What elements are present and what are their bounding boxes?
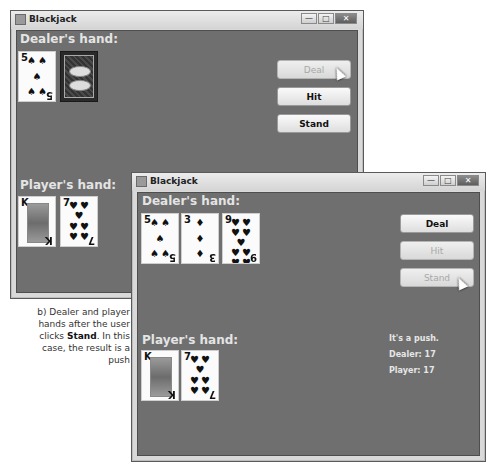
maximize-button[interactable]: □ xyxy=(440,175,456,186)
pips: ♥♥ ♥ ♥♥ ♥♥ xyxy=(68,201,90,242)
minimize-button[interactable]: — xyxy=(301,13,317,24)
table-area: Dealer's hand: 5 ♠♠ ♠ ♠♠ 5 3 ♦ ♦ ♦ 3 9 ♥… xyxy=(137,192,480,456)
stand-button[interactable]: Stand xyxy=(277,114,351,133)
card-9-hearts: 9 ♥♥ ♥♥ ♥ ♥♥ ♥♥ 9 xyxy=(222,213,260,264)
hit-button[interactable]: Hit xyxy=(400,241,474,260)
hit-button[interactable]: Hit xyxy=(277,87,351,106)
player-hand-label: Player's hand: xyxy=(142,333,238,347)
card-back-emblem xyxy=(69,66,91,77)
player-hand-label: Player's hand: xyxy=(20,178,116,192)
card-7-hearts: 7 ♥♥ ♥ ♥♥ ♥♥ 7 xyxy=(181,350,219,401)
pips: ♠♠ ♠ ♠♠ xyxy=(26,56,48,97)
figure-caption: b) Dealer and player hands after the use… xyxy=(18,306,130,366)
card-face-down xyxy=(60,51,98,102)
card-k-spades: K K xyxy=(141,350,179,401)
maximize-button[interactable]: □ xyxy=(318,13,334,24)
dealer-total: Dealer: 17 xyxy=(389,350,436,359)
card-k-spades: K K xyxy=(18,196,56,247)
app-icon xyxy=(15,14,26,25)
blackjack-window-after: Blackjack — □ ✕ Dealer's hand: 5 ♠♠ ♠ ♠♠… xyxy=(131,172,486,462)
minimize-button[interactable]: — xyxy=(423,175,439,186)
close-button[interactable]: ✕ xyxy=(335,13,357,24)
app-icon xyxy=(136,176,147,187)
window-title: Blackjack xyxy=(29,14,77,24)
window-title: Blackjack xyxy=(150,176,198,186)
title-bar[interactable]: Blackjack — □ ✕ xyxy=(11,11,363,29)
player-total: Player: 17 xyxy=(389,366,434,375)
card-7-hearts: 7 ♥♥ ♥ ♥♥ ♥♥ 7 xyxy=(60,196,98,247)
result-text: It's a push. xyxy=(389,334,439,343)
title-bar[interactable]: Blackjack — □ ✕ xyxy=(132,173,485,191)
card-back-emblem xyxy=(69,80,91,91)
deal-button[interactable]: Deal xyxy=(400,214,474,233)
card-5-spades: 5 ♠♠ ♠ ♠♠ 5 xyxy=(141,213,179,264)
card-3-diamonds: 3 ♦ ♦ ♦ 3 xyxy=(181,213,219,264)
dealer-hand-label: Dealer's hand: xyxy=(20,32,118,46)
card-5-spades: 5 ♠♠ ♠ ♠♠ 5 xyxy=(18,51,56,102)
close-button[interactable]: ✕ xyxy=(457,175,479,186)
dealer-hand-label: Dealer's hand: xyxy=(142,194,240,208)
